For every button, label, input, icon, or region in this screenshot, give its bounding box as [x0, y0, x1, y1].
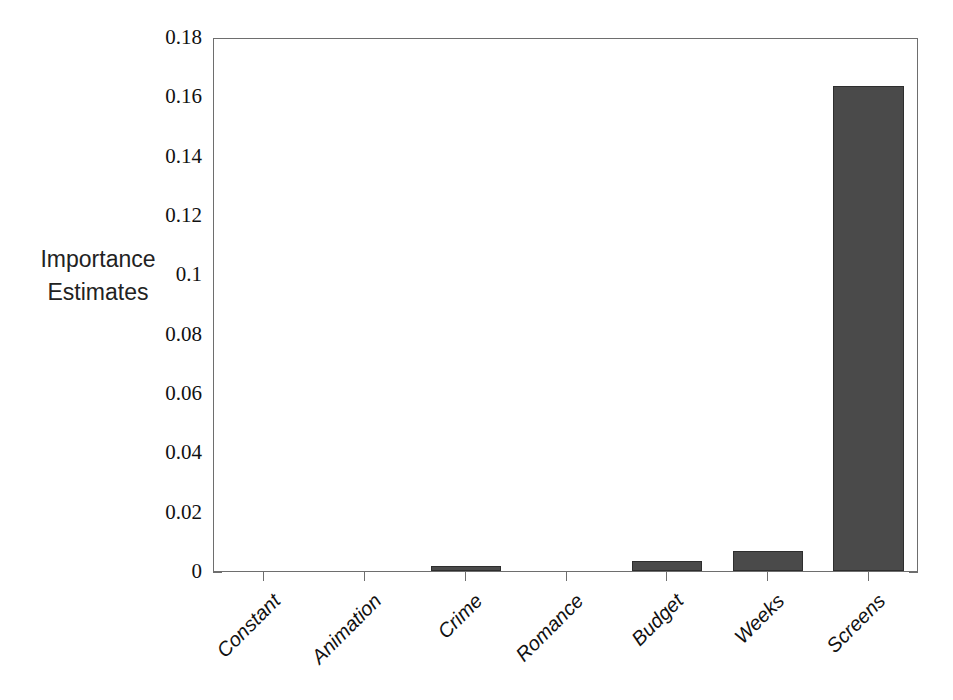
- y-tick-label: 0.08: [110, 324, 202, 345]
- x-tick-label: Constant: [128, 589, 286, 700]
- x-tick-mark: [566, 572, 567, 581]
- y-tick-label: 0.16: [110, 86, 202, 107]
- y-tick-label: 0.1: [110, 264, 202, 285]
- x-tick-mark: [465, 572, 466, 581]
- bar: [431, 566, 502, 571]
- x-tick-mark: [666, 572, 667, 581]
- y-tick-label: 0.06: [110, 383, 202, 404]
- bar: [632, 561, 703, 571]
- y-tick-label: 0.02: [110, 502, 202, 523]
- y-tick-label: 0.04: [110, 442, 202, 463]
- y-tick-label: 0.12: [110, 205, 202, 226]
- y-tick-label: 0.18: [110, 27, 202, 48]
- x-tick-mark: [868, 572, 869, 581]
- bar: [833, 86, 904, 571]
- plot-area: [213, 38, 918, 572]
- y-tick-label: 0.14: [110, 146, 202, 167]
- y-tick-mark-right: [909, 572, 918, 573]
- y-tick-mark: [213, 572, 222, 573]
- x-tick-mark: [263, 572, 264, 581]
- y-tick-label: 0: [110, 561, 202, 582]
- x-tick-mark: [364, 572, 365, 581]
- figure-canvas: Importance Estimates 00.020.040.060.080.…: [0, 0, 953, 700]
- bar-series: [214, 39, 917, 571]
- x-tick-mark: [767, 572, 768, 581]
- bar: [733, 551, 804, 571]
